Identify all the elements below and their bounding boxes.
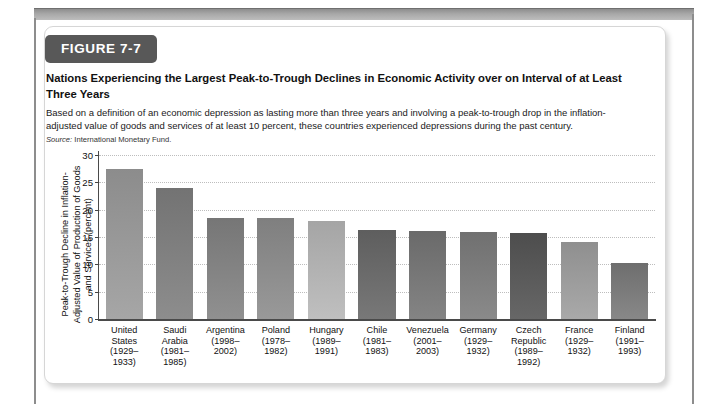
x-tick-label-line: 1933) — [99, 357, 150, 368]
x-tick-label-line: 1983) — [352, 346, 403, 357]
y-tick-mark — [95, 210, 99, 211]
x-tick-label-line: 1932) — [453, 346, 504, 357]
x-tick-label-line: 2002) — [200, 346, 251, 357]
source-label: Source: — [46, 135, 72, 144]
figure-subtitle: Based on a definition of an economic dep… — [46, 106, 634, 132]
x-tick-label-line: Hungary — [301, 325, 352, 336]
x-tick-label-line: Poland — [251, 325, 302, 336]
x-tick-label-line: (1978– — [251, 336, 302, 347]
figure-card: FIGURE 7-7 Nations Experiencing the Larg… — [44, 26, 666, 384]
x-tick-label-line: (2001– — [402, 336, 453, 347]
page-top-rule — [34, 8, 694, 20]
source-value: International Monetary Fund. — [74, 135, 171, 144]
x-tick-label: France(1929–1932) — [554, 325, 605, 357]
x-tick-label-line: Argentina — [200, 325, 251, 336]
x-tick-label-line: France — [554, 325, 605, 336]
x-tick-label-line: Republic — [503, 336, 554, 347]
y-tick-label: 20 — [82, 204, 93, 215]
page-background: FIGURE 7-7 Nations Experiencing the Larg… — [0, 0, 701, 411]
bar — [409, 231, 446, 319]
x-tick-label-line: (1929– — [453, 336, 504, 347]
y-tick-mark — [95, 319, 99, 320]
x-tick-label: Finland(1991–1993) — [604, 325, 655, 357]
bar — [106, 169, 143, 319]
x-tick-label-line: United — [99, 325, 150, 336]
x-tick-label-line: (1929– — [99, 346, 150, 357]
x-tick-label-line: (1989– — [503, 346, 554, 357]
figure-source: Source: International Monetary Fund. — [46, 135, 171, 144]
bar — [207, 218, 244, 319]
y-tick-mark — [95, 182, 99, 183]
x-tick-label-line: Arabia — [150, 336, 201, 347]
page-right-rule — [692, 14, 694, 404]
x-tick-label-line: Saudi — [150, 325, 201, 336]
y-tick-mark — [95, 237, 99, 238]
x-tick-label-line: Finland — [604, 325, 655, 336]
figure-number-badge: FIGURE 7-7 — [45, 35, 157, 63]
x-tick-label: Poland(1978–1982) — [251, 325, 302, 357]
y-tick-mark — [95, 292, 99, 293]
x-tick-label-line: (1989– — [301, 336, 352, 347]
bar — [308, 221, 345, 319]
y-tick-label: 15 — [82, 232, 93, 243]
y-tick-mark — [95, 264, 99, 265]
y-tick-label: 25 — [82, 177, 93, 188]
x-tick-label-line: Germany — [453, 325, 504, 336]
x-tick-label-line: 1993) — [604, 346, 655, 357]
bar — [358, 230, 395, 319]
x-tick-label-line: 1991) — [301, 346, 352, 357]
x-tick-label-line: (1991– — [604, 336, 655, 347]
gridline — [99, 182, 655, 183]
x-tick-label: UnitedStates(1929–1933) — [99, 325, 150, 367]
y-tick-label: 10 — [82, 259, 93, 270]
x-tick-label: SaudiArabia(1981–1985) — [150, 325, 201, 367]
y-tick-label: 5 — [88, 286, 93, 297]
x-tick-label-line: 1982) — [251, 346, 302, 357]
x-tick-label-line: 1985) — [150, 357, 201, 368]
bar — [460, 232, 497, 319]
bar-chart: Peak-to-Trough Decline in Inflation-Adju… — [45, 155, 657, 377]
x-tick-label-line: Chile — [352, 325, 403, 336]
x-tick-label-line: 1992) — [503, 357, 554, 368]
x-tick-label-line: (1981– — [150, 346, 201, 357]
y-tick-label: 0 — [88, 314, 93, 325]
x-axis-line — [98, 319, 656, 321]
gridline — [99, 155, 655, 156]
figure-title: Nations Experiencing the Largest Peak-to… — [46, 71, 641, 102]
x-tick-label: CzechRepublic(1989–1992) — [503, 325, 554, 367]
x-tick-label-line: (1998– — [200, 336, 251, 347]
y-tick-label: 30 — [82, 150, 93, 161]
bar — [510, 233, 547, 319]
bar — [611, 263, 648, 319]
x-tick-label-line: Czech — [503, 325, 554, 336]
x-tick-label-line: 1932) — [554, 346, 605, 357]
x-tick-label-line: (1929– — [554, 336, 605, 347]
x-tick-label-line: Venezuela — [402, 325, 453, 336]
x-tick-label: Hungary(1989–1991) — [301, 325, 352, 357]
y-axis-line — [98, 151, 99, 319]
page-left-rule — [34, 18, 36, 404]
bar — [156, 188, 193, 319]
x-tick-label: Venezuela(2001–2003) — [402, 325, 453, 357]
x-tick-label: Germany(1929–1932) — [453, 325, 504, 357]
bar — [257, 218, 294, 319]
bar — [561, 242, 598, 319]
plot-area: 051015202530 UnitedStates(1929–1933)Saud… — [99, 155, 655, 319]
x-tick-label: Argentina(1998–2002) — [200, 325, 251, 357]
x-tick-label-line: (1981– — [352, 336, 403, 347]
y-tick-mark — [95, 155, 99, 156]
x-tick-label-line: 2003) — [402, 346, 453, 357]
x-tick-label-line: States — [99, 336, 150, 347]
x-tick-label: Chile(1981–1983) — [352, 325, 403, 357]
